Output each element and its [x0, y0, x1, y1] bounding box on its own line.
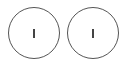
circle-button-2[interactable]: I — [67, 7, 119, 59]
circle-button-1[interactable]: I — [8, 7, 60, 59]
power-on-icon — [33, 29, 35, 38]
power-on-icon — [92, 29, 94, 38]
